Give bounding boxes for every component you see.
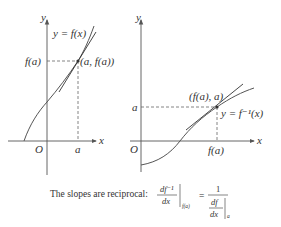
caption-text: The slopes are reciprocal: (50, 189, 148, 199)
caption: The slopes are reciprocal: df⁻¹ dx f(a) … (50, 184, 230, 219)
right-curve-label: y = f⁻¹(x) (220, 107, 264, 120)
right-graph: y x O f(a) a (f(a), a) y = f⁻¹(x) (130, 11, 264, 172)
lhs-eval: f(a) (182, 203, 190, 210)
right-point-label: (f(a), a) (189, 90, 224, 103)
right-y-tick-label: a (132, 101, 138, 113)
rhs-numerator: 1 (216, 184, 220, 194)
right-origin-label: O (130, 143, 138, 155)
right-y-axis-label: y (135, 11, 141, 23)
rhs-eval: a (227, 213, 230, 219)
left-origin-label: O (35, 143, 43, 155)
left-x-tick-label: a (75, 143, 81, 155)
rhs-inner-numerator: df (211, 197, 219, 207)
left-y-axis-label: y (40, 11, 46, 23)
left-y-tick-label: f(a) (25, 55, 41, 68)
left-graph: y x O a f(a) y = f(x) (a, f(a)) (8, 11, 115, 175)
rhs-inner-denominator: dx (210, 209, 218, 219)
lhs-numerator: df⁻¹ (160, 184, 174, 194)
left-point-label: (a, f(a)) (80, 55, 115, 68)
left-x-axis-label: x (98, 134, 104, 146)
left-curve-label: y = f(x) (52, 27, 86, 40)
right-x-tick-label: f(a) (208, 144, 224, 157)
right-tangent-point (215, 105, 218, 108)
equals-sign: = (199, 191, 204, 201)
lhs-denominator: dx (162, 196, 170, 206)
inverse-function-diagram: y x O a f(a) y = f(x) (a, f(a)) y x O f(… (0, 0, 281, 227)
left-curve-f (24, 26, 94, 141)
right-x-axis-label: x (256, 134, 262, 146)
